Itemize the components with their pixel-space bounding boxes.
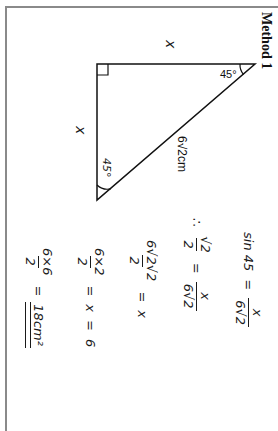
fraction: 6√2√2 2: [128, 238, 158, 283]
right-angle-marker: [97, 64, 108, 75]
worksheet-page: Method 1 45° 45° x x 6√2cm sin 45 = x 6√…: [0, 0, 278, 431]
denominator: 2: [128, 255, 144, 267]
working-line-5: 6×6 2 = 18cm²: [24, 246, 54, 346]
equals-sign: =: [83, 285, 98, 296]
denominator: 6√2: [234, 298, 250, 327]
fraction: x 6√2: [234, 298, 264, 327]
working-line-1: sin 45 = x 6√2: [234, 232, 264, 327]
denominator: 2: [24, 256, 40, 268]
numerator: 6×6: [39, 246, 54, 277]
sin-expression: sin 45: [241, 232, 256, 271]
numerator: x: [197, 290, 212, 302]
numerator: 6×2: [91, 246, 106, 277]
rhs-value: 6: [83, 339, 98, 347]
angle-arc-top: [240, 64, 244, 75]
fraction: √2 2: [182, 234, 212, 255]
fraction: 6×6 2: [24, 246, 54, 277]
working-line-4: 6×2 2 = x = 6: [76, 246, 106, 347]
working-line-2: ∴ √2 2 = x 6√2: [182, 218, 212, 311]
variable-x: x: [83, 304, 98, 312]
fraction: 6×2 2: [76, 246, 106, 277]
leg-label-side: x: [163, 39, 179, 49]
hypotenuse-label: 6√2cm: [175, 136, 189, 172]
denominator: 2: [76, 256, 92, 268]
working-line-3: 6√2√2 2 = x: [128, 238, 158, 318]
equals-sign: =: [241, 279, 256, 290]
fraction: x 6√2: [182, 282, 212, 311]
numerator: 6√2√2: [143, 238, 158, 283]
denominator: 2: [182, 238, 198, 250]
equals-sign: =: [135, 291, 150, 302]
final-answer: 18cm²: [31, 304, 46, 346]
triangle-diagram: 45° 45° x x 6√2cm: [0, 0, 278, 431]
angle-arc-bottom: [97, 185, 111, 189]
rhs-value: x: [135, 310, 150, 318]
equals-sign: =: [31, 285, 46, 296]
angle-label-top: 45°: [220, 68, 237, 80]
numerator: √2: [197, 234, 212, 255]
leg-label-bottom: x: [73, 125, 89, 135]
equals-sign: =: [83, 320, 98, 331]
denominator: 6√2: [182, 282, 198, 311]
angle-label-bottom: 45°: [100, 158, 113, 178]
numerator: x: [249, 307, 264, 319]
therefore-symbol: ∴: [189, 218, 204, 226]
equals-sign: =: [189, 263, 204, 274]
right-triangle: [97, 64, 255, 200]
